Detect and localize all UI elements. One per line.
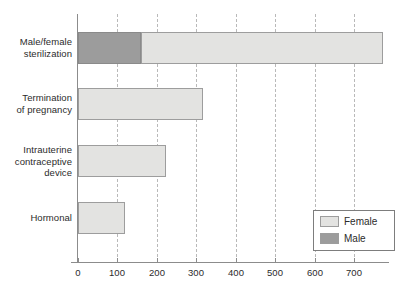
category-label-line: contraceptive: [0, 156, 72, 168]
category-label-line: Intrauterine: [0, 144, 72, 156]
tick-mark-300: [196, 258, 197, 263]
bar-segment-male-sterilization: [78, 32, 141, 64]
tick-label-500: 500: [255, 267, 295, 278]
legend-item-female: Female: [320, 216, 377, 227]
x-axis-line: [71, 262, 389, 263]
legend-swatch-female-icon: [320, 216, 339, 227]
tick-mark-500: [275, 258, 276, 263]
bar-segment-female-sterilization: [141, 32, 383, 64]
legend-swatch-male-icon: [320, 233, 339, 244]
category-label-line: Hormonal: [0, 212, 72, 224]
tick-mark-0: [78, 258, 79, 263]
bar-segment-female-iud: [78, 145, 166, 177]
tick-mark-400: [236, 258, 237, 263]
bar-segment-female-termination: [78, 88, 203, 120]
tick-mark-200: [157, 258, 158, 263]
tick-label-400: 400: [216, 267, 256, 278]
tick-mark-700: [354, 258, 355, 263]
horizontal-bar-chart: Male/female sterilization Termination of…: [0, 0, 400, 291]
bar-segment-female-hormonal: [78, 202, 125, 234]
legend-item-male: Male: [320, 233, 366, 244]
category-label-line: sterilization: [0, 48, 72, 60]
tick-label-100: 100: [97, 267, 137, 278]
category-label-line: Termination: [0, 92, 72, 104]
category-label-sterilization: Male/female sterilization: [0, 36, 72, 59]
legend: Female Male: [313, 210, 395, 251]
tick-label-300: 300: [176, 267, 216, 278]
tick-label-700: 700: [334, 267, 374, 278]
tick-mark-600: [315, 258, 316, 263]
tick-label-600: 600: [295, 267, 335, 278]
category-label-hormonal: Hormonal: [0, 212, 72, 224]
category-label-line: device: [0, 167, 72, 179]
tick-mark-100: [117, 258, 118, 263]
legend-label-female: Female: [344, 216, 377, 227]
category-label-iud: Intrauterine contraceptive device: [0, 144, 72, 179]
category-label-line: Male/female: [0, 36, 72, 48]
tick-label-0: 0: [58, 267, 98, 278]
legend-label-male: Male: [344, 233, 366, 244]
category-label-line: of pregnancy: [0, 104, 72, 116]
category-label-termination: Termination of pregnancy: [0, 92, 72, 115]
tick-label-200: 200: [137, 267, 177, 278]
